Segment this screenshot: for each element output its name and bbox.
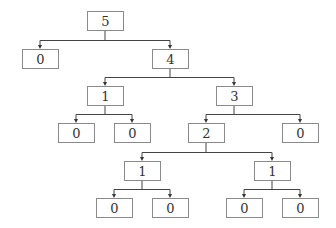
edge-group: [204, 105, 302, 123]
tree-node: 0: [227, 199, 263, 218]
node-label: 1: [101, 89, 109, 104]
arrowhead-icon: [242, 194, 246, 198]
node-label: 1: [138, 164, 146, 179]
tree-node: 0: [97, 199, 133, 218]
arrowhead-icon: [130, 119, 134, 123]
arrowhead-icon: [232, 82, 236, 86]
edge-group: [103, 68, 236, 86]
arrowhead-icon: [74, 119, 78, 123]
tree-node: 1: [88, 87, 124, 106]
arrowhead-icon: [298, 119, 302, 123]
node-label: 0: [110, 201, 118, 216]
node-label: 0: [296, 201, 304, 216]
tree-node: 0: [23, 50, 59, 69]
arrowhead-icon: [270, 157, 274, 161]
arrowhead-icon: [112, 194, 116, 198]
node-label: 0: [240, 201, 248, 216]
node-label: 2: [202, 126, 210, 141]
tree-node: 4: [153, 50, 189, 69]
tree-node: 1: [255, 162, 291, 181]
arrowhead-icon: [38, 45, 42, 49]
node-label: 0: [296, 126, 304, 141]
tree-node: 0: [59, 124, 95, 143]
edge-group: [140, 142, 274, 161]
node-label: 0: [128, 126, 136, 141]
tree-node: 0: [115, 124, 151, 143]
arrowhead-icon: [140, 157, 144, 161]
edge-group: [38, 30, 172, 49]
tree-node: 0: [283, 124, 319, 143]
node-label: 0: [166, 201, 174, 216]
tree-node: 0: [153, 199, 189, 218]
node-label: 0: [36, 52, 44, 67]
arrowhead-icon: [168, 45, 172, 49]
tree-node: 2: [189, 124, 225, 143]
node-label: 0: [72, 126, 80, 141]
arrowhead-icon: [168, 194, 172, 198]
node-label: 5: [101, 14, 109, 29]
tree-node: 3: [217, 87, 253, 106]
edge-group: [74, 105, 134, 123]
edge-group: [112, 180, 172, 198]
edge-group: [242, 180, 302, 198]
node-label: 4: [166, 52, 174, 67]
tree-node: 5: [88, 12, 124, 31]
node-label: 1: [268, 164, 276, 179]
tree-node: 1: [125, 162, 161, 181]
node-label: 3: [230, 89, 238, 104]
arrowhead-icon: [298, 194, 302, 198]
arrowhead-icon: [204, 119, 208, 123]
tree-diagram: 504130020110000: [0, 0, 336, 228]
tree-node: 0: [283, 199, 319, 218]
arrowhead-icon: [103, 82, 107, 86]
